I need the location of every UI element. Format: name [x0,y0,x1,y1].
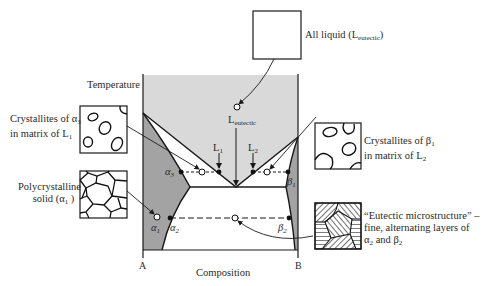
axis-end-b: B [295,260,302,271]
alpha2-point [168,216,173,221]
label-alpha1: α1 [151,222,160,237]
callout-polycrystalline: Polycrystalline solid (α1 ) [18,181,81,208]
label-l-eutectic: Leutectic [228,114,256,129]
label-l1: L1 [213,142,223,157]
alpha3-liquid-state-point [199,169,205,175]
micrograph-eutectic [315,203,361,249]
micrograph-crystallites-beta [315,123,361,169]
callout-eutectic-microstructure: “Eutectic microstructure” – fine, altern… [364,210,479,249]
label-l2: L2 [248,142,258,157]
micrograph-polycrystalline [80,171,127,218]
axis-end-a: A [139,260,146,271]
micrograph-crystallites-alpha [80,106,127,153]
label-beta1: β1 [287,176,296,191]
beta2-point [287,216,292,221]
beta1-point [286,170,291,175]
eutectic-state-point [232,215,238,221]
label-alpha3: α3 [165,166,174,181]
all-liquid-point [234,104,240,110]
callout-all-liquid: All liquid (Leutectic) [305,29,383,44]
y-axis-label: Temperature [87,79,140,91]
label-alpha2: α2 [170,222,179,237]
l1-point [217,170,222,175]
micrograph-all-liquid [253,11,301,59]
callout-crystallites-alpha: Crystallites of α3 in matrix of L1 [10,113,81,143]
alpha1-point [154,214,160,220]
x-axis-label: Composition [196,267,250,279]
alpha3-point [179,170,184,175]
beta1-liquid-state-point [264,169,270,175]
callout-crystallites-beta: Crystallites of β1 in matrix of L2 [364,135,435,165]
l2-point [251,170,256,175]
label-beta2: β2 [278,222,287,237]
